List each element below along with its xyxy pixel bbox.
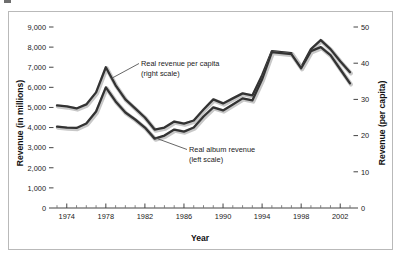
y-tick-label-left: 9,000 xyxy=(28,23,47,32)
x-tick-label: 1982 xyxy=(137,212,153,221)
y-tick-label-left: 8,000 xyxy=(28,43,47,52)
lower-annotation-text: (left scale) xyxy=(189,155,223,164)
y-tick-label-left: 6,000 xyxy=(28,83,47,92)
y-tick-label-left: 5,000 xyxy=(28,103,47,112)
x-tick-label: 1986 xyxy=(176,212,192,221)
lower-annotation-text: Real album revenue xyxy=(189,145,255,154)
y-tick-label-left: 7,000 xyxy=(28,63,47,72)
x-axis-title: Year xyxy=(191,233,210,243)
y-tick-label-right: 0 xyxy=(361,204,365,213)
x-tick-label: 2002 xyxy=(332,212,348,221)
x-tick-label: 1998 xyxy=(293,212,309,221)
y-tick-label-right: 10 xyxy=(361,168,369,177)
y-tick-label-left: 0 xyxy=(42,204,46,213)
chart-figure: 1974197819821986199019941998200201,0002,… xyxy=(0,0,403,261)
y-axis-left-title: Revenue (in millions) xyxy=(15,80,25,167)
y-tick-label-left: 1,000 xyxy=(28,184,47,193)
y-tick-label-right: 30 xyxy=(361,95,369,104)
y-axis-right-title: Revenue (per capita) xyxy=(377,81,387,166)
x-tick-label: 1994 xyxy=(254,212,270,221)
y-tick-label-left: 4,000 xyxy=(28,123,47,132)
y-tick-label-right: 50 xyxy=(361,23,369,32)
lower-annotation-leader-line xyxy=(156,138,187,149)
upper-annotation-leader-line xyxy=(112,64,139,79)
upper-annotation-text: (right scale) xyxy=(141,69,180,78)
upper-annotation-text: Real revenue per capita xyxy=(141,59,220,68)
x-tick-label: 1978 xyxy=(98,212,114,221)
revenue-line-chart: 1974197819821986199019941998200201,0002,… xyxy=(0,0,403,261)
y-tick-label-right: 40 xyxy=(361,59,369,68)
x-tick-label: 1990 xyxy=(215,212,231,221)
x-tick-label: 1974 xyxy=(59,212,75,221)
annotations-group: Real revenue per capita(right scale)Real… xyxy=(112,59,255,164)
y-tick-label-right: 20 xyxy=(361,131,369,140)
y-tick-label-left: 3,000 xyxy=(28,143,47,152)
data-series-group xyxy=(57,40,351,140)
y-tick-label-left: 2,000 xyxy=(28,164,47,173)
